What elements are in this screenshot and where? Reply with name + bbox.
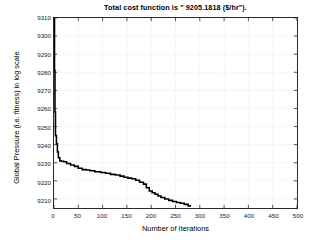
convergence-line-series — [54, 18, 297, 208]
x-tick-500: 500 — [278, 212, 311, 219]
y-tick-9240: 9240 — [3, 142, 51, 149]
y-tick-9230: 9230 — [3, 160, 51, 167]
y-tick-9300: 9300 — [3, 32, 51, 39]
figure-canvas: Total cost function is " 9205.1818 ($/hr… — [0, 0, 311, 244]
chart-title: Total cost function is " 9205.1818 ($/hr… — [53, 3, 298, 12]
x-axis-title: Number of Iterations — [53, 224, 298, 233]
y-tick-9280: 9280 — [3, 68, 51, 75]
y-tick-9210: 9210 — [3, 196, 51, 203]
y-axis-title: Global Pressure (i.e. fitness) in log sc… — [12, 18, 21, 218]
y-tick-9310: 9310 — [3, 14, 51, 21]
y-tick-9260: 9260 — [3, 105, 51, 112]
y-tick-9220: 9220 — [3, 178, 51, 185]
y-tick-9270: 9270 — [3, 87, 51, 94]
plot-area — [53, 17, 298, 209]
y-tick-9250: 9250 — [3, 123, 51, 130]
y-tick-9290: 9290 — [3, 50, 51, 57]
